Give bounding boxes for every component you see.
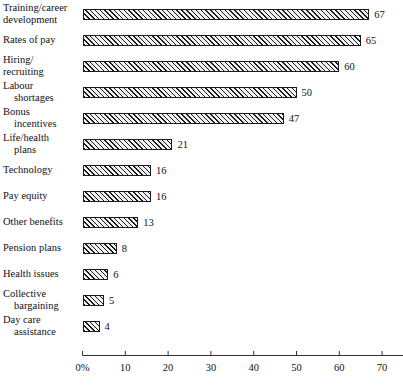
chart-row: Health issues6 [0, 262, 403, 288]
bar[interactable] [83, 35, 361, 46]
bar-track: 60 [0, 54, 403, 80]
bar-value-label: 65 [366, 34, 377, 47]
bar-track: 67 [0, 2, 403, 28]
chart-row: Day careassistance4 [0, 314, 403, 340]
bar-value-label: 16 [156, 164, 167, 177]
chart-row: Pension plans8 [0, 236, 403, 262]
bar[interactable] [83, 165, 151, 176]
chart-row: Bonusincentives47 [0, 106, 403, 132]
bar-track: 8 [0, 236, 403, 262]
bar-value-label: 60 [344, 60, 355, 73]
bar-track: 50 [0, 80, 403, 106]
bar-track: 4 [0, 314, 403, 340]
bar-value-label: 16 [156, 190, 167, 203]
x-axis-tick-label: 40 [248, 362, 259, 374]
x-axis-tick-label: 70 [377, 362, 388, 374]
bar[interactable] [83, 113, 284, 124]
bar-value-label: 6 [113, 268, 118, 281]
x-axis-tick-label: 20 [163, 362, 174, 374]
bar[interactable] [83, 321, 100, 332]
bar-value-label: 21 [177, 138, 188, 151]
bar[interactable] [83, 217, 139, 228]
chart-row: Pay equity16 [0, 184, 403, 210]
x-axis-tick-label: 10 [120, 362, 131, 374]
chart-row: Other benefits13 [0, 210, 403, 236]
bar-track: 16 [0, 158, 403, 184]
bar[interactable] [83, 295, 104, 306]
bar-value-label: 50 [302, 86, 313, 99]
chart-row: Labourshortages50 [0, 80, 403, 106]
bar-track: 13 [0, 210, 403, 236]
bar-value-label: 5 [109, 294, 114, 307]
bar[interactable] [83, 243, 117, 254]
chart-row: Collectivebargaining5 [0, 288, 403, 314]
bar-value-label: 8 [122, 242, 127, 255]
chart-row: Life/healthplans21 [0, 132, 403, 158]
x-axis-tick-label: 50 [291, 362, 302, 374]
x-axis-tick-label: 60 [334, 362, 345, 374]
bar[interactable] [83, 87, 297, 98]
chart-row: Training/careerdevelopment67 [0, 2, 403, 28]
bar-value-label: 13 [143, 216, 154, 229]
bar-value-label: 47 [289, 112, 300, 125]
chart-row: Hiring/recruiting60 [0, 54, 403, 80]
horizontal-bar-chart: Training/careerdevelopment67Rates of pay… [0, 0, 403, 386]
bar-track: 65 [0, 28, 403, 54]
bar[interactable] [83, 9, 370, 20]
x-axis-tick-label: 30 [206, 362, 217, 374]
bar-track: 6 [0, 262, 403, 288]
bar[interactable] [83, 139, 173, 150]
bar-track: 5 [0, 288, 403, 314]
bar-value-label: 67 [374, 8, 385, 21]
bar-track: 47 [0, 106, 403, 132]
bar-value-label: 4 [105, 320, 110, 333]
bar-track: 16 [0, 184, 403, 210]
bar-track: 21 [0, 132, 403, 158]
bar[interactable] [83, 269, 109, 280]
bar[interactable] [83, 191, 151, 202]
chart-row: Rates of pay65 [0, 28, 403, 54]
bar[interactable] [83, 61, 340, 72]
chart-row: Technology16 [0, 158, 403, 184]
x-axis-tick-label: 0% [76, 362, 90, 374]
